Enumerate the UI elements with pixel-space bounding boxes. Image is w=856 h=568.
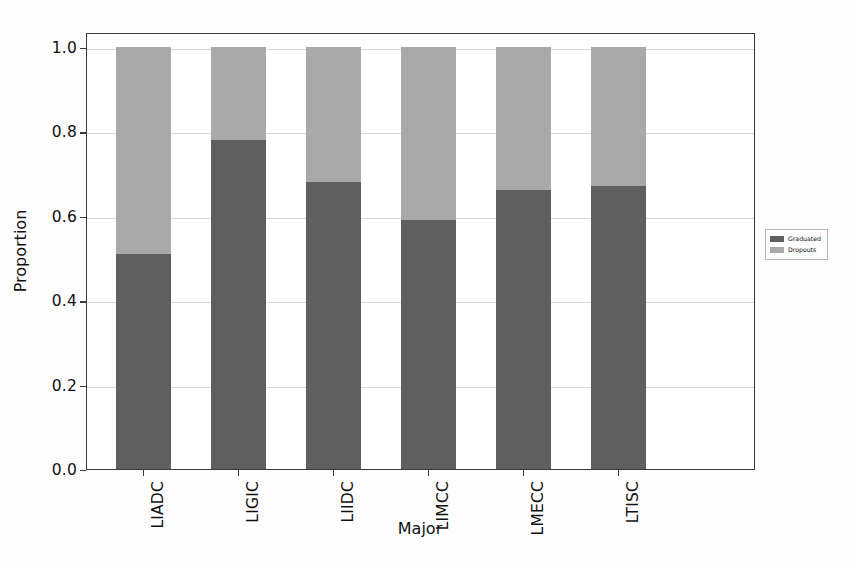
y-tick-label: 0.8: [17, 123, 77, 141]
legend-swatch: [770, 247, 784, 253]
bar-segment-graduated[interactable]: [591, 186, 646, 469]
bar-segment-dropouts[interactable]: [116, 47, 171, 254]
bar-segment-dropouts[interactable]: [211, 47, 266, 140]
y-tick-label: 0.2: [17, 377, 77, 395]
bar-segment-graduated[interactable]: [306, 182, 361, 469]
legend-item[interactable]: Graduated: [770, 234, 823, 244]
bar-group[interactable]: [591, 32, 646, 469]
bar-group[interactable]: [401, 32, 456, 469]
bar-segment-graduated[interactable]: [116, 254, 171, 469]
x-tick-mark: [333, 470, 334, 476]
legend-item[interactable]: Dropouts: [770, 245, 823, 255]
x-tick-label: LMECC: [529, 481, 547, 535]
x-tick-label: LIIDC: [339, 481, 357, 523]
bar-group[interactable]: [116, 32, 171, 469]
x-tick-mark: [523, 470, 524, 476]
bar-segment-dropouts[interactable]: [591, 47, 646, 186]
bar-group[interactable]: [211, 32, 266, 469]
x-tick-label: LTISC: [624, 481, 642, 523]
y-tick-label: 0.4: [17, 292, 77, 310]
y-tick-label: 1.0: [17, 39, 77, 57]
bar-segment-dropouts[interactable]: [496, 47, 551, 190]
bar-group[interactable]: [306, 32, 361, 469]
y-tick-label: 0.0: [17, 461, 77, 479]
x-tick-mark: [618, 470, 619, 476]
bar-group[interactable]: [496, 32, 551, 469]
legend-swatch: [770, 236, 784, 242]
plot-area: [86, 33, 755, 470]
x-tick-mark: [238, 470, 239, 476]
x-tick-mark: [428, 470, 429, 476]
bar-segment-dropouts[interactable]: [401, 47, 456, 220]
x-axis-title: Major: [398, 519, 442, 538]
bar-segment-graduated[interactable]: [496, 190, 551, 469]
legend-label: Dropouts: [788, 247, 816, 253]
bar-segment-dropouts[interactable]: [306, 47, 361, 182]
y-tick-mark: [80, 470, 86, 471]
x-tick-label: LIGIC: [244, 481, 262, 523]
x-tick-label: LIADC: [149, 481, 167, 529]
x-tick-mark: [143, 470, 144, 476]
bar-segment-graduated[interactable]: [211, 140, 266, 469]
bar-segment-graduated[interactable]: [401, 220, 456, 469]
legend: GraduatedDropouts: [765, 229, 828, 260]
chart-figure: Proportion 0.00.20.40.60.81.0 LIADCLIGIC…: [0, 0, 856, 568]
y-tick-label: 0.6: [17, 208, 77, 226]
legend-label: Graduated: [788, 236, 821, 242]
